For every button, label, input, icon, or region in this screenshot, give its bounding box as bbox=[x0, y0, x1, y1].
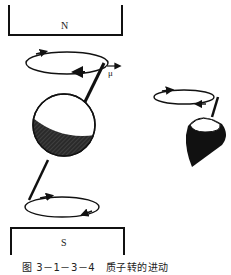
spinning-nucleus bbox=[33, 94, 95, 160]
south-magnet bbox=[11, 228, 124, 255]
precession-orbit-bottom bbox=[25, 196, 99, 217]
spinning-top-analogy bbox=[154, 90, 226, 167]
north-pole-label: N bbox=[61, 20, 68, 31]
magnetic-moment-label: μ bbox=[108, 68, 113, 78]
precession-orbit-top bbox=[26, 52, 108, 74]
south-pole-label: S bbox=[61, 237, 67, 248]
figure-caption: 图 3－1－3－4 质子转的进动 bbox=[22, 259, 222, 274]
